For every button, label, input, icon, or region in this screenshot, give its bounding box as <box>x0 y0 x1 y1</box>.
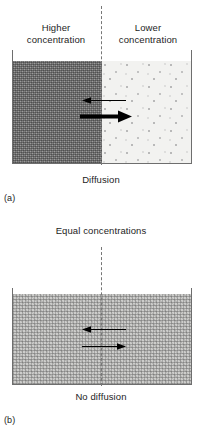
vessel-b-left-wall <box>12 288 13 385</box>
caption-diffusion: Diffusion <box>0 174 202 185</box>
vessel-a <box>12 50 192 164</box>
vessel-b-bottom-wall <box>12 384 192 385</box>
panel-b-no-diffusion: Equal concentrations No diffusion (b) <box>0 215 202 438</box>
medium-stipple-texture-right <box>102 294 191 384</box>
header-higher-line-1: Higher <box>12 22 100 34</box>
thin-left-arrow-b <box>82 325 126 334</box>
header-lower-concentration: Lower concentration <box>104 22 192 45</box>
vessel-a-bottom-wall <box>12 163 192 164</box>
header-lower-line-1: Lower <box>104 22 192 34</box>
panel-tag-b: (b) <box>4 415 15 425</box>
fluid-b-right-half <box>102 294 191 384</box>
thick-right-arrow-a <box>80 110 132 123</box>
header-higher-line-2: concentration <box>12 34 100 46</box>
vessel-a-left-wall <box>12 50 13 164</box>
vessel-a-right-wall <box>191 50 192 164</box>
dashed-divider-b <box>101 247 102 386</box>
vessel-b <box>12 288 192 385</box>
thin-right-arrow-b <box>82 342 126 351</box>
caption-no-diffusion: No diffusion <box>0 391 202 402</box>
header-lower-line-2: concentration <box>104 34 192 46</box>
header-higher-concentration: Higher concentration <box>12 22 100 45</box>
fluid-b <box>13 294 191 384</box>
header-equal-concentrations: Equal concentrations <box>11 225 191 237</box>
dashed-divider-a <box>101 6 102 165</box>
panel-tag-a: (a) <box>4 193 15 203</box>
medium-stipple-texture-left <box>13 294 102 384</box>
vessel-b-right-wall <box>191 288 192 385</box>
thin-left-arrow-a <box>82 96 126 105</box>
fluid-b-left-half <box>13 294 102 384</box>
panel-a-diffusion: Higher concentration Lower concentration <box>0 0 202 215</box>
